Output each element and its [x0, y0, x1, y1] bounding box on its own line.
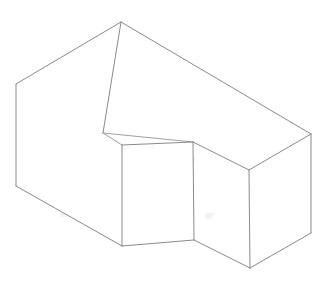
notch-front-face [122, 142, 194, 246]
left-side-face [16, 84, 122, 246]
isometric-block-figure [0, 0, 327, 284]
drawing-canvas [0, 0, 327, 284]
solid-faces [16, 22, 311, 268]
edge-top-back-left [16, 22, 121, 84]
